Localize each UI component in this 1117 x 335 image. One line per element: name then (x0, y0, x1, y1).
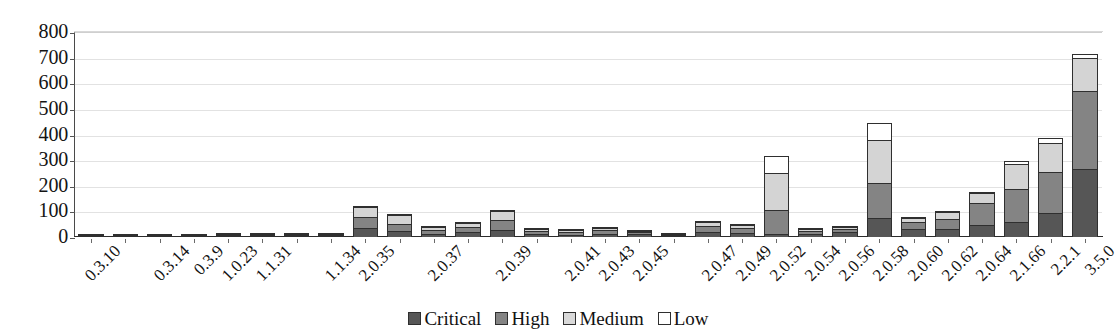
x-tick-slot: 2.0.39 (485, 239, 519, 301)
bar-slot (451, 32, 485, 237)
legend-swatch-medium-icon (563, 312, 576, 325)
bar-slot (588, 32, 622, 237)
bar-slot (554, 32, 588, 237)
x-tick-slot: 2.0.56 (828, 239, 862, 301)
bar-slot (143, 32, 177, 237)
bar-segment-low (764, 156, 789, 173)
bar-segment-high (1038, 172, 1063, 213)
x-tick-slot: 0.3.9 (177, 239, 211, 301)
bar-slot (485, 32, 519, 237)
bar-slot (348, 32, 382, 237)
bar-segment-medium (1072, 58, 1097, 91)
bar-slot (314, 32, 348, 237)
x-tick-slot: 2.0.52 (759, 239, 793, 301)
x-tick-slot: 1.0.23 (211, 239, 245, 301)
x-tick-slot: 0.3.14 (143, 239, 177, 301)
x-tick-label-text: 3.5.0 (1081, 242, 1117, 278)
x-tick-slot: 2.0.43 (588, 239, 622, 301)
bar-slot (1068, 32, 1102, 237)
x-tick-mark (400, 239, 401, 243)
x-tick-slot: 2.1.66 (999, 239, 1033, 301)
y-tick-label: 300 (39, 149, 68, 169)
bar-slot (108, 32, 142, 237)
bar-segment-high (867, 183, 892, 218)
y-tick-label: 400 (39, 124, 68, 144)
bar-slot (725, 32, 759, 237)
bar-stack[interactable] (1072, 54, 1097, 237)
bar-slot (657, 32, 691, 237)
legend-label: Critical (424, 309, 481, 328)
x-tick-slot: 2.2.1 (1033, 239, 1067, 301)
bar-slot (177, 32, 211, 237)
bar-slot (211, 32, 245, 237)
legend-item-high[interactable]: High (495, 309, 549, 328)
y-axis: 8007006005004003002001000 (0, 0, 74, 248)
x-tick-slot: 1.1.31 (245, 239, 279, 301)
legend-item-low[interactable]: Low (658, 309, 709, 328)
x-tick-slot: 2.0.62 (931, 239, 965, 301)
y-tick-label: 100 (39, 200, 68, 220)
x-axis: 0.3.100.3.140.3.91.0.231.1.311.1.342.0.3… (74, 239, 1102, 301)
x-tick-slot: 3.5.0 (1068, 239, 1102, 301)
bar-slot (965, 32, 999, 237)
bar-slot (759, 32, 793, 237)
x-tick-slot: 2.0.49 (725, 239, 759, 301)
legend-swatch-low-icon (658, 312, 671, 325)
bars-layer (74, 32, 1102, 237)
bar-segment-high (490, 220, 515, 230)
x-tick-mark (537, 239, 538, 243)
legend-label: High (511, 309, 549, 328)
bar-slot (931, 32, 965, 237)
bar-slot (794, 32, 828, 237)
bar-slot (519, 32, 553, 237)
x-tick-slot: 0.3.10 (74, 239, 108, 301)
bar-segment-low (867, 123, 892, 140)
bar-slot (999, 32, 1033, 237)
x-tick-mark (674, 239, 675, 243)
stacked-bar-chart: 8007006005004003002001000 0.3.100.3.140.… (0, 0, 1117, 335)
y-tick-label: 200 (39, 175, 68, 195)
bar-segment-high (1072, 91, 1097, 169)
x-tick-slot: 2.0.45 (622, 239, 656, 301)
legend-label: Low (674, 309, 709, 328)
legend-item-medium[interactable]: Medium (563, 309, 643, 328)
x-tick-slot (657, 239, 691, 301)
bar-slot (280, 32, 314, 237)
bar-segment-medium (867, 140, 892, 184)
x-tick-slot: 2.0.58 (862, 239, 896, 301)
x-tick-slot (382, 239, 416, 301)
y-tick-label: 600 (39, 72, 68, 92)
bar-slot (896, 32, 930, 237)
x-tick-slot (519, 239, 553, 301)
x-tick-slot: 2.0.54 (794, 239, 828, 301)
x-tick-slot: 2.0.37 (417, 239, 451, 301)
x-tick-slot: 1.1.34 (314, 239, 348, 301)
chart-legend: CriticalHighMediumLow (0, 303, 1117, 333)
x-tick-slot (451, 239, 485, 301)
bar-segment-medium (969, 193, 994, 203)
x-tick-slot: 2.0.60 (896, 239, 930, 301)
bar-segment-medium (490, 211, 515, 220)
y-tick-label: 700 (39, 47, 68, 67)
legend-label: Medium (579, 309, 643, 328)
y-tick-label: 800 (39, 21, 68, 41)
bar-segment-medium (1004, 164, 1029, 188)
x-tick-slot: 2.0.47 (691, 239, 725, 301)
plot-wrapper: 8007006005004003002001000 0.3.100.3.140.… (0, 0, 1117, 248)
bar-slot (382, 32, 416, 237)
legend-swatch-high-icon (495, 312, 508, 325)
y-tick-label: 0 (58, 226, 68, 246)
bar-slot (862, 32, 896, 237)
bar-slot (1033, 32, 1067, 237)
bar-slot (622, 32, 656, 237)
x-tick-mark (125, 239, 126, 243)
x-tick-mark (297, 239, 298, 243)
x-tick-slot: 2.0.64 (965, 239, 999, 301)
legend-swatch-critical-icon (408, 312, 421, 325)
x-tick-slot: 2.0.35 (348, 239, 382, 301)
legend-item-critical[interactable]: Critical (408, 309, 481, 328)
bar-slot (828, 32, 862, 237)
x-tick-slot (280, 239, 314, 301)
x-tick-slot: 2.0.41 (554, 239, 588, 301)
bar-slot (245, 32, 279, 237)
